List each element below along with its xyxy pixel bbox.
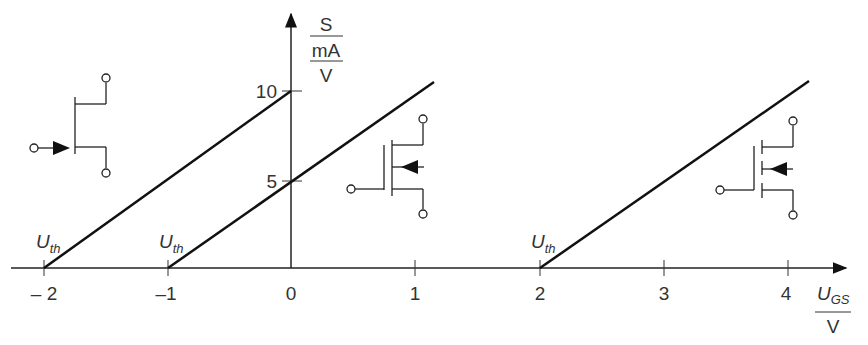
n-channel-jfet-icon <box>30 74 110 177</box>
x-tick-label: 4 <box>781 283 792 304</box>
threshold-label: Uth <box>531 231 556 256</box>
x-tick-label: – 2 <box>31 283 57 304</box>
enhancement-mosfet-icon <box>716 117 797 219</box>
transconductance-chart: – 2 –1 0 1 2 3 4 10 5 S mA V UGS V Uth U… <box>0 0 868 345</box>
x-tick-label: 1 <box>410 283 421 304</box>
y-ticks <box>282 91 302 181</box>
svg-text:V: V <box>827 316 840 337</box>
y-tick-label: 10 <box>256 81 277 102</box>
x-tick-label: 3 <box>659 283 670 304</box>
svg-text:mA: mA <box>312 40 341 61</box>
svg-text:UGS: UGS <box>817 283 850 307</box>
svg-text:S: S <box>320 14 333 35</box>
series-enhancement-mosfet <box>540 81 809 268</box>
x-tick-label: –1 <box>155 283 176 304</box>
x-axis-label: UGS V <box>815 283 851 337</box>
y-axis-label: S mA V <box>310 14 343 86</box>
threshold-label: Uth <box>36 231 61 256</box>
x-tick-label: 2 <box>535 283 546 304</box>
depletion-mosfet-icon <box>347 115 427 218</box>
svg-text:V: V <box>320 65 333 86</box>
threshold-label: Uth <box>159 231 184 256</box>
series-depletion-mosfet <box>168 82 434 268</box>
y-tick-label: 5 <box>266 171 277 192</box>
x-tick-label: 0 <box>286 283 297 304</box>
